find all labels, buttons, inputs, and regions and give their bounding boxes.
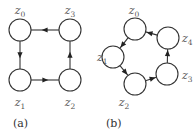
edge-z3-z4 <box>165 49 170 63</box>
edge-z2-z3 <box>67 41 72 69</box>
node-z1: z1 <box>96 46 124 68</box>
edge-z0-z1 <box>17 41 22 69</box>
node-z1: z1 <box>9 69 31 111</box>
arrowhead-icon <box>67 52 72 58</box>
arrowhead-icon <box>17 52 22 58</box>
edge-z2-z3 <box>145 77 156 82</box>
node-z2: z2 <box>118 73 146 111</box>
node-label: z0 <box>128 4 140 19</box>
diagram-caption: (a) <box>13 117 28 130</box>
node-z4: z4 <box>157 27 193 49</box>
diagram-a: z0z1z2z3(a) <box>9 4 81 130</box>
node-label: z0 <box>14 4 26 19</box>
node-z3: z3 <box>59 4 81 41</box>
edge-z3-z0 <box>31 27 59 32</box>
arrowhead-icon <box>42 77 48 82</box>
edge-z4-z0 <box>146 31 158 36</box>
node-label: z4 <box>181 32 193 47</box>
node-z0: z0 <box>9 4 31 41</box>
arrowhead-icon <box>165 50 170 56</box>
edge-z0-z1 <box>120 38 128 49</box>
node-label: z3 <box>181 69 193 84</box>
arrowhead-icon <box>149 77 156 82</box>
node-label: z1 <box>14 96 26 111</box>
node-z0: z0 <box>124 4 146 40</box>
diagram-caption: (b) <box>106 117 122 130</box>
cycle-diagrams: z0z1z2z3(a)z0z1z2z3z4(b) <box>0 0 194 135</box>
arrowhead-icon <box>42 27 48 32</box>
edge-z1-z2 <box>120 66 128 76</box>
edge-z1-z2 <box>31 77 59 82</box>
node-z2: z2 <box>59 69 81 111</box>
node-label: z2 <box>118 96 130 111</box>
diagram-b: z0z1z2z3z4(b) <box>96 4 193 130</box>
node-z3: z3 <box>156 63 193 85</box>
node-label: z2 <box>64 96 76 111</box>
node-label: z3 <box>64 4 76 19</box>
